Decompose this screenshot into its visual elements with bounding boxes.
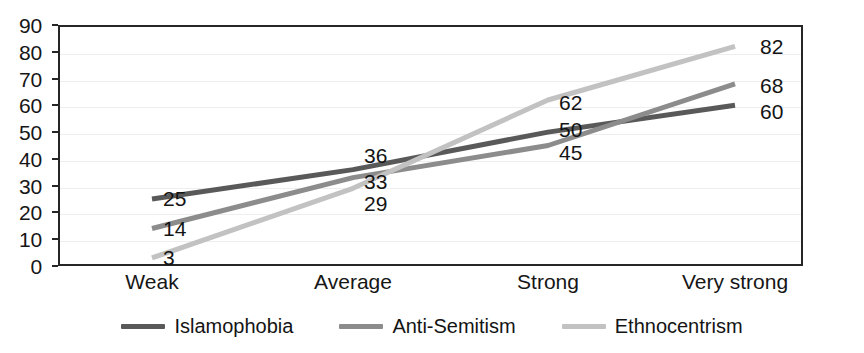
data-label: 45 [559, 142, 582, 163]
data-label: 60 [760, 101, 783, 122]
legend-item[interactable]: Ethnocentrism [562, 316, 743, 336]
legend-item[interactable]: Islamophobia [121, 316, 293, 336]
data-label: 25 [163, 188, 186, 209]
legend-swatch [121, 324, 165, 329]
data-label: 36 [364, 145, 387, 166]
data-label: 29 [364, 193, 387, 214]
legend-swatch [339, 324, 383, 329]
legend-label: Islamophobia [174, 316, 293, 336]
line-chart: 9080706050403020100 25143363329625045826… [0, 0, 864, 353]
x-tick-label: Very strong [682, 270, 788, 294]
data-labels: 25143363329625045826860 [0, 0, 864, 353]
data-label: 14 [163, 218, 186, 239]
data-label: 3 [163, 247, 175, 268]
legend-label: Anti-Semitism [392, 316, 515, 336]
x-tick-label: Average [314, 270, 392, 294]
x-tick-label: Weak [125, 270, 178, 294]
legend-label: Ethnocentrism [615, 316, 743, 336]
data-label: 33 [364, 171, 387, 192]
legend-swatch [562, 324, 606, 329]
data-label: 62 [559, 92, 582, 113]
x-tick-label: Strong [517, 270, 579, 294]
data-label: 82 [760, 36, 783, 57]
data-label: 68 [760, 75, 783, 96]
chart-legend: IslamophobiaAnti-SemitismEthnocentrism [0, 306, 864, 346]
data-label: 50 [559, 119, 582, 140]
legend-item[interactable]: Anti-Semitism [339, 316, 515, 336]
x-axis: WeakAverageStrongVery strong [58, 270, 803, 300]
